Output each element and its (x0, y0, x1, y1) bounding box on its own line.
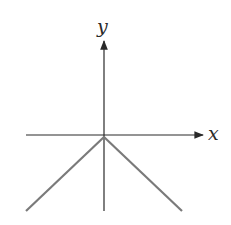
coordinate-plot: y x (0, 0, 231, 225)
graph-right-branch (104, 137, 182, 211)
graph-left-branch (26, 137, 104, 211)
y-axis-label: y (96, 15, 108, 37)
x-axis-label: x (208, 122, 219, 144)
figure-canvas: y x (0, 0, 231, 225)
